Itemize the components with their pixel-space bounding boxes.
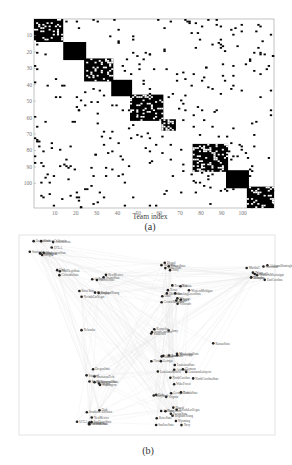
- node-dot: [157, 370, 160, 373]
- node-dot: [212, 342, 215, 345]
- matrix-block: [226, 170, 249, 188]
- node-dot: [40, 240, 43, 243]
- node-label: SanJoseState: [99, 278, 115, 282]
- node-dot: [56, 269, 59, 272]
- network-node: LouisianaMonroe: [157, 370, 182, 374]
- x-axis-label: Team index: [132, 212, 167, 221]
- node-label: SanJoseState: [158, 423, 174, 427]
- adjacency-matrix-plot: 102030405060708090100 102030405060708090…: [0, 0, 292, 232]
- node-label: NotreDame: [168, 409, 183, 413]
- y-tick-label: 20: [27, 49, 33, 55]
- node-dot: [169, 269, 172, 272]
- node-label: Vanderbilt: [153, 332, 166, 336]
- node-label: Nebraska: [164, 263, 176, 267]
- node-label: Mississippi: [179, 353, 193, 357]
- matrix-block: [63, 42, 86, 60]
- node-dot: [96, 279, 99, 282]
- node-label: Utah: [59, 268, 65, 272]
- node-label: Navy: [172, 268, 179, 272]
- node-label: WesternMichigan: [191, 289, 213, 293]
- node-dot: [98, 409, 101, 412]
- node-dot: [182, 368, 185, 371]
- node-label: Arizona: [42, 251, 52, 255]
- node-label: BoiseState: [159, 416, 173, 420]
- network-node: WesternMichigan: [188, 289, 213, 293]
- node-dot: [185, 371, 188, 374]
- y-tick-label: 70: [27, 131, 33, 137]
- node-dot: [160, 264, 163, 267]
- x-tick-label: 70: [177, 210, 183, 216]
- x-tick-label: 90: [219, 210, 225, 216]
- node-dot: [250, 276, 253, 279]
- node-label: EastCarolina: [267, 278, 283, 282]
- node-label: Maryland: [156, 394, 168, 398]
- node-dot: [160, 410, 163, 413]
- node-dot: [153, 328, 156, 331]
- node-dot: [152, 394, 155, 397]
- node-label: Utah: [102, 408, 108, 412]
- node-dot: [80, 329, 83, 332]
- node-label: OregonState: [95, 367, 111, 371]
- node-label: BoiseState: [82, 289, 96, 293]
- y-tick-label: 80: [27, 147, 33, 153]
- node-label: FloridaState: [183, 391, 198, 395]
- caption-b: (b): [142, 445, 154, 457]
- node-label: WashingtonState: [97, 380, 118, 384]
- network-node: SanJoseState: [96, 278, 116, 282]
- node-label: Army: [171, 329, 178, 333]
- node-dot: [175, 420, 178, 423]
- node-label: NorthCarolinaState: [195, 377, 219, 381]
- y-tick-label: 60: [27, 115, 33, 121]
- node-dot: [28, 250, 31, 253]
- y-tick-label: 90: [27, 164, 33, 170]
- network-node: ColoradoState: [58, 273, 79, 277]
- node-dot: [155, 424, 158, 427]
- panel-b-network-graph: OregonStateStanfordWashingtonOregonWashi…: [0, 232, 292, 465]
- node-label: Toledo: [179, 299, 188, 303]
- node-dot: [173, 383, 176, 386]
- network-node: NevadaLasVegas: [80, 295, 105, 299]
- node-label: Tulane: [255, 271, 264, 275]
- network-node: SouthernCalifornia: [40, 239, 67, 243]
- node-dot: [161, 295, 164, 298]
- network-node: LouisianaLafayette: [185, 370, 212, 374]
- y-tick-label: 50: [27, 98, 33, 104]
- caption-a: (a): [144, 221, 155, 232]
- node-dot: [164, 410, 167, 413]
- node-label: Stanford: [89, 374, 100, 378]
- node-dot: [160, 360, 163, 363]
- node-dot: [58, 274, 61, 277]
- node-dot: [176, 354, 179, 357]
- node-label: Navy: [184, 423, 191, 427]
- x-tick-label: 100: [239, 210, 248, 216]
- node-dot: [169, 376, 172, 379]
- network-node: NorthCarolinaState: [192, 377, 219, 381]
- node-dot: [85, 374, 88, 377]
- node-label: Ohio: [164, 294, 171, 298]
- network-node: BoiseState: [155, 416, 172, 420]
- network-node: NewMexico: [90, 416, 109, 420]
- node-dot: [78, 290, 81, 293]
- node-label: Marshall: [249, 266, 260, 270]
- x-tick-label: 40: [115, 210, 121, 216]
- node-dot: [90, 416, 93, 419]
- matrix-block: [111, 80, 132, 96]
- network-node: EastCarolina: [263, 278, 283, 282]
- x-tick-label: 30: [94, 210, 100, 216]
- node-label: KansasState: [215, 342, 230, 346]
- network-plot: OregonStateStanfordWashingtonOregonWashi…: [0, 232, 292, 465]
- network-node: FloridaState: [180, 391, 199, 395]
- node-dot: [179, 285, 182, 288]
- y-tick-label: 40: [27, 82, 33, 88]
- node-dot: [263, 279, 266, 282]
- node-dot: [80, 295, 83, 298]
- node-label: UCLA: [79, 420, 88, 424]
- node-dot: [155, 417, 158, 420]
- node-dot: [32, 240, 35, 243]
- node-dot: [150, 332, 153, 335]
- node-label: Nebraska: [84, 328, 96, 332]
- panel-a-adjacency-matrix: 102030405060708090100 102030405060708090…: [0, 0, 292, 232]
- node-label: NewMexico: [94, 416, 109, 420]
- node-dot: [173, 364, 176, 367]
- x-tick-label: 80: [198, 210, 204, 216]
